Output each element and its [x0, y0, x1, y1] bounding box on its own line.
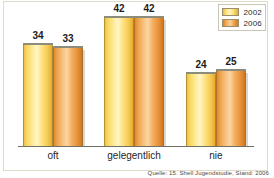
- bar-cap: [53, 46, 83, 48]
- bar-oft-2002: [23, 43, 53, 146]
- bar-shadow: [82, 50, 85, 146]
- source-note: Quelle: 15. Shell Jugendstudie, Stand: 2…: [148, 169, 269, 177]
- chart-screenshot: 2002 2006 34 33: [0, 0, 274, 178]
- bar-shadow: [245, 73, 248, 146]
- bar-cap: [23, 43, 53, 45]
- bar-value-oft-2002: 34: [23, 30, 53, 41]
- bar-cap: [216, 69, 246, 71]
- bar-value-gelegentlich-2002: 42: [104, 3, 134, 14]
- category-label-nie: nie: [186, 150, 246, 162]
- bar-gelegentlich-2006: [134, 16, 164, 146]
- bar-nie-2002: [186, 72, 216, 146]
- category-label-oft: oft: [23, 150, 83, 162]
- bar-value-nie-2002: 24: [186, 59, 216, 70]
- bar-cap: [134, 16, 164, 18]
- bar-nie-2006: [216, 69, 246, 146]
- category-label-gelegentlich: gelegentlich: [99, 150, 169, 162]
- bar-oft-2006: [53, 46, 83, 146]
- bar-gelegentlich-2002: [104, 16, 134, 146]
- chart-plot-area: 2002 2006 34 33: [0, 0, 274, 178]
- bar-value-gelegentlich-2006: 42: [134, 3, 164, 14]
- bar-cap: [104, 16, 134, 18]
- bar-value-nie-2006: 25: [216, 56, 246, 67]
- x-axis-line: [18, 146, 254, 147]
- bar-value-oft-2006: 33: [53, 33, 83, 44]
- bar-cap: [186, 72, 216, 74]
- bar-shadow: [163, 20, 166, 146]
